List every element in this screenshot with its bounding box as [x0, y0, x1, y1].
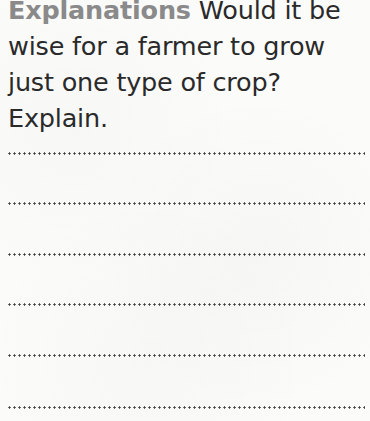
answer-line-6[interactable]: [7, 406, 365, 409]
answer-line-5[interactable]: [7, 354, 365, 357]
answer-line-2[interactable]: [7, 202, 365, 205]
answer-line-3[interactable]: [7, 253, 365, 256]
answer-line-4[interactable]: [7, 303, 365, 306]
question-prompt: ExplanationsWould it be wise for a farme…: [8, 0, 368, 136]
answer-line-1[interactable]: [7, 152, 365, 155]
question-label: Explanations: [8, 0, 191, 25]
